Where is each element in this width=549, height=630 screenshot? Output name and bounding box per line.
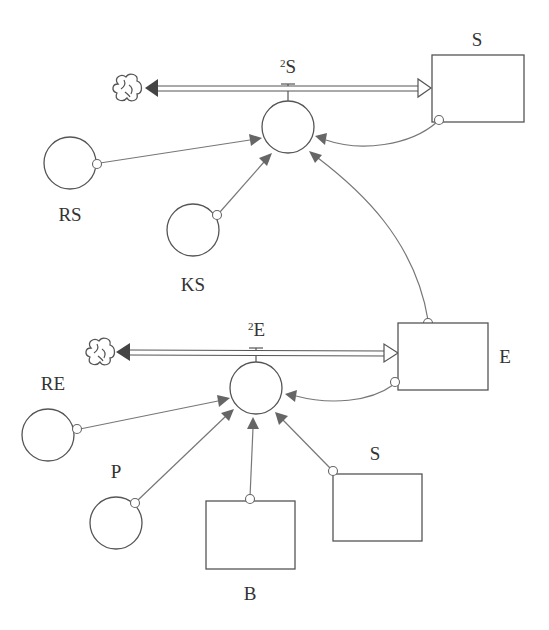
link-p-to-flow-e <box>131 409 235 508</box>
inflow-arrowhead <box>418 79 431 97</box>
stock-b-label: B <box>244 583 257 604</box>
converter-ks-label: KS <box>181 274 205 295</box>
bottom-sector: 2E E RE P B S <box>22 319 511 604</box>
converter-re-label: RE <box>41 373 65 394</box>
outflow-arrowhead <box>145 79 158 97</box>
link-s2-to-flow-e <box>275 412 338 476</box>
stock-s-label: S <box>472 29 483 50</box>
flow-valve-e[interactable] <box>230 362 282 414</box>
stock-b[interactable] <box>206 501 295 569</box>
converter-rs[interactable] <box>44 137 96 189</box>
flow-pipe-s <box>145 79 431 101</box>
flow-label-e: 2E <box>248 319 265 340</box>
converter-rs-label: RS <box>58 204 81 225</box>
stock-flow-diagram: 2S S RS KS <box>0 0 549 630</box>
link-stock-e-to-flow-e <box>285 378 400 403</box>
stock-e-label: E <box>499 346 511 367</box>
cloud-icon <box>113 74 142 101</box>
flow-pipe-e <box>116 343 398 362</box>
stock-e[interactable] <box>398 323 488 390</box>
link-b-to-flow-e <box>246 417 260 504</box>
link-re-to-flow-e <box>73 395 231 434</box>
stock-s[interactable] <box>432 55 524 122</box>
link-rs-to-flow-s <box>93 134 263 169</box>
outflow-arrowhead <box>116 343 130 361</box>
stock-s2[interactable] <box>333 474 422 541</box>
stock-s2-label: S <box>370 443 381 464</box>
top-sector: 2S S RS KS <box>44 29 524 328</box>
flow-label-s: 2S <box>280 56 296 77</box>
converter-ks[interactable] <box>167 204 219 256</box>
link-ks-to-flow-s <box>213 153 273 220</box>
flow-valve-s[interactable] <box>262 101 314 153</box>
link-stock-e-to-flow-s <box>309 151 433 328</box>
cloud-icon <box>86 338 115 365</box>
link-stock-s-to-flow-s <box>315 116 444 147</box>
inflow-arrowhead <box>384 344 398 362</box>
converter-p-label: P <box>111 461 122 482</box>
converter-re[interactable] <box>22 409 74 461</box>
